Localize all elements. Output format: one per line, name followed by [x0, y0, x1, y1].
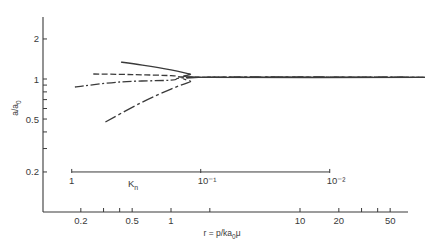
- x-axis-label-part: r = p/ka: [203, 228, 232, 238]
- x-tick-label: 0.5: [126, 215, 139, 226]
- kn-subscript: n: [134, 184, 138, 191]
- y-tick-label: 1: [34, 74, 39, 85]
- kn-secondary-axis: 110⁻¹10⁻²Kn: [69, 169, 345, 191]
- y-tick-label: 0.2: [26, 166, 39, 177]
- kn-tick-label: 10⁻²: [327, 175, 346, 186]
- x-tick-label: 10: [295, 215, 306, 226]
- x-axis-ticks: 0.20.51102050: [74, 208, 395, 226]
- kn-tick-label: 1: [69, 175, 74, 186]
- series-longdash-line: [105, 77, 425, 122]
- x-axis-label: r = p/ka0μ: [203, 228, 240, 240]
- kn-label: Kn: [128, 178, 138, 191]
- x-tick-label: 20: [334, 215, 345, 226]
- x-axis-label-part: μ: [236, 228, 241, 238]
- series-dashdot-line: [75, 77, 425, 87]
- y-axis-ticks: 210.50.2: [26, 33, 47, 177]
- x-tick-label: 1: [168, 215, 173, 226]
- data-series: [75, 62, 425, 122]
- x-tick-label: 0.2: [74, 215, 87, 226]
- y-axis-label-part: a/a: [10, 104, 20, 116]
- y-axis-label-part: 0: [15, 100, 22, 104]
- x-tick-label: 50: [385, 215, 396, 226]
- y-tick-label: 2: [34, 33, 39, 44]
- y-axis-label: a/a0: [10, 100, 22, 116]
- chart: 0.20.51102050 210.50.2 110⁻¹10⁻²Kn r = p…: [0, 0, 433, 246]
- y-tick-label: 0.5: [26, 114, 39, 125]
- kn-tick-label: 10⁻¹: [198, 175, 217, 186]
- axes: [43, 17, 408, 212]
